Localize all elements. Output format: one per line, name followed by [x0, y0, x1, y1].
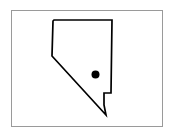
map-figure: Nevada [0, 0, 174, 140]
city-marker-dot[interactable] [92, 71, 100, 79]
map-canvas [0, 0, 174, 140]
state-outline-nevada [52, 20, 112, 115]
